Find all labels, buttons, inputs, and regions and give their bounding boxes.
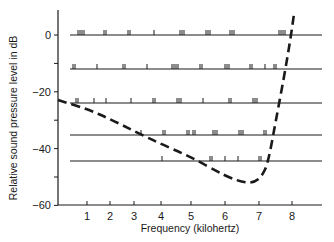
x-tick-label: 4: [158, 210, 164, 222]
x-tick-label: 3: [131, 210, 137, 222]
x-tick-label: 5: [188, 210, 194, 222]
x-tick-label: 6: [222, 210, 228, 222]
chart: 0−20−40−60 12345678 Frequency (kilohertz…: [0, 0, 334, 242]
y-tick-label: 0: [45, 29, 51, 41]
x-tick-label: 7: [256, 210, 262, 222]
x-tick-label: 8: [289, 210, 295, 222]
x-tick-label: 1: [84, 210, 90, 222]
spectral-row: [70, 30, 322, 35]
y-axis-title: Relative sound pressure level in dB: [7, 36, 19, 201]
y-tick-label: −40: [32, 143, 51, 155]
spectral-rows: [70, 30, 322, 161]
y-tick-label: −20: [32, 86, 51, 98]
x-axis-title: Frequency (kilohertz): [141, 222, 240, 234]
spectral-row: [70, 64, 322, 69]
spectral-row: [70, 98, 322, 103]
y-axis: 0−20−40−60: [32, 10, 58, 211]
spectral-row: [70, 130, 322, 135]
spectral-row: [70, 156, 322, 161]
x-tick-label: 2: [107, 210, 113, 222]
y-tick-label: −60: [32, 199, 51, 211]
x-axis: 12345678: [58, 201, 322, 222]
